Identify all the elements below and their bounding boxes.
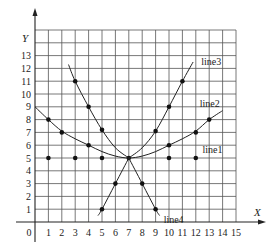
line3-point [86,105,91,110]
x-tick-label: 2 [59,227,64,238]
y-tick-label: 9 [26,101,31,112]
line3-point [180,79,185,84]
x-tick-label: 5 [100,227,105,238]
x-tick-label: 14 [218,227,228,238]
y-tick-label: 6 [26,140,31,151]
x-tick-label: 11 [178,227,188,238]
line1-point [100,156,105,161]
x-tick-label: 10 [164,227,174,238]
y-tick-label: 12 [21,63,31,74]
line3-point [153,129,158,134]
y-tick-label: 7 [26,127,31,138]
line2-point [46,117,51,122]
line2-point [167,143,172,148]
line3-curve-left [69,65,129,158]
x-tick-label: 12 [191,227,201,238]
x-tick-label: 15 [231,227,241,238]
line4-point [113,181,118,186]
line2-point [60,130,65,135]
line3-point [100,128,105,133]
x-axis-arrow-icon [258,220,266,225]
y-tick-label: 2 [26,191,31,202]
line4-point [140,181,145,186]
chart: XY 1234567891011121314150123456789101112… [0,0,274,248]
line3-label: line3 [201,56,221,67]
y-tick-label: 8 [26,114,31,125]
line2-point [194,130,199,135]
y-tick-label: 4 [26,165,31,176]
y-tick-label: 1 [26,204,31,215]
line3-point [73,79,78,84]
x-tick-label: 1 [46,227,51,238]
line4-point [153,207,158,212]
y-tick-label: 5 [26,153,31,164]
x-tick-label: 9 [153,227,158,238]
x-tick-label: 13 [204,227,214,238]
x-tick-label: 3 [73,227,78,238]
x-tick-label: 6 [113,227,118,238]
line3-curve-right [129,62,193,158]
line4-label: line4 [164,214,184,225]
y-tick-label: 3 [26,178,31,189]
line1-point [194,156,199,161]
x-tick-label: 4 [86,227,91,238]
x-tick-label: 7 [126,227,131,238]
origin-label: 0 [27,227,32,238]
line4-curve-left [98,158,129,216]
line2-point [86,143,91,148]
y-axis-label: Y [22,32,30,44]
y-tick-label: 13 [21,50,31,61]
line1-label: line1 [203,144,223,155]
line1-point [46,156,51,161]
line2-label: line2 [200,98,220,109]
line1-point [73,156,78,161]
y-tick-label: 11 [21,76,31,87]
line4-point [100,207,105,212]
line1-point [167,156,172,161]
y-tick-label: 10 [21,89,31,100]
line4-curve-right [129,158,160,216]
y-axis-arrow-icon [33,8,38,16]
x-tick-label: 8 [140,227,145,238]
x-axis-label: X [253,206,262,218]
line2-point [207,117,212,122]
line3-point [167,105,172,110]
